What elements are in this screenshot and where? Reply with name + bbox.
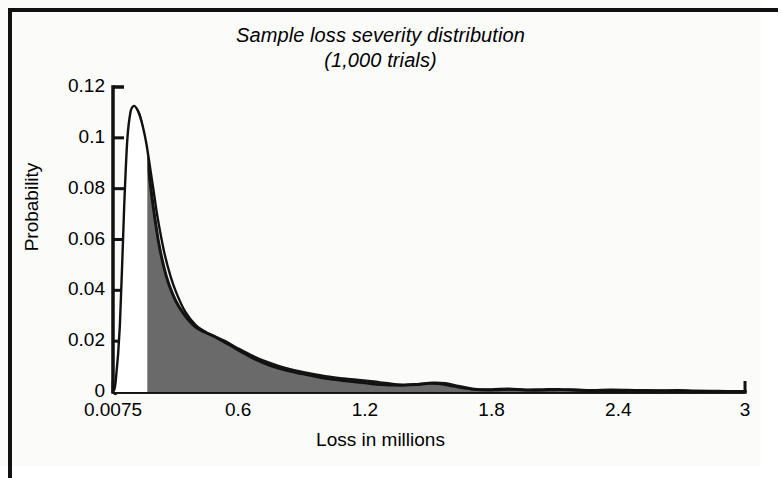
series-group — [113, 106, 745, 394]
series-fill-sampled-distribution — [113, 110, 745, 394]
